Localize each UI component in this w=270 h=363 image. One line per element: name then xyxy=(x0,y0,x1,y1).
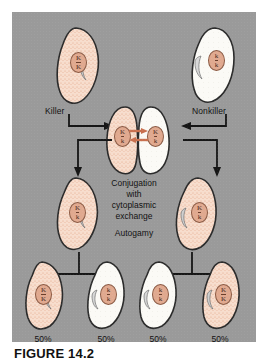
genotype-denominator: k xyxy=(76,212,80,221)
cell-parent-nonkiller: k k xyxy=(187,26,239,106)
genotype-exconjugant-right: K k xyxy=(191,202,208,223)
percent-offspring-2: 50% xyxy=(89,334,123,342)
arrow-conjugation-to-exconjugant-left xyxy=(66,136,118,180)
cell-exconjugant-left: K k xyxy=(54,176,102,252)
label-killer: Killer xyxy=(45,106,65,116)
genotype-parent-killer: K K xyxy=(70,52,87,73)
figure-panel: K K Killer k k Nonkiller K xyxy=(12,12,256,342)
genotype-denominator: k xyxy=(121,136,125,145)
genotype-parent-nonkiller: k k xyxy=(208,50,225,71)
percent-offspring-3: 50% xyxy=(141,334,175,342)
genotype-numerator: K xyxy=(197,205,202,213)
cell-exconjugant-right: K k xyxy=(172,176,220,252)
genotype-denominator: K xyxy=(76,62,81,71)
genotype-denominator: k xyxy=(154,136,158,145)
genotype-numerator: k xyxy=(107,287,111,295)
genotype-offspring-4: K K xyxy=(215,284,232,305)
genotype-denominator: k xyxy=(159,294,163,303)
figure-caption: FIGURE 14.2 xyxy=(14,346,94,361)
genotype-numerator: K xyxy=(76,55,81,63)
genotype-denominator: K xyxy=(221,294,226,303)
genotype-numerator: k xyxy=(159,287,163,295)
arrow-cytoplasmic-exchange xyxy=(129,127,149,145)
cell-offspring-1: K K xyxy=(22,260,66,332)
cell-offspring-2: k k xyxy=(84,260,128,332)
genotype-numerator: K xyxy=(221,287,226,295)
arrow-nonkiller-to-conjugation xyxy=(177,112,229,138)
genotype-numerator: k xyxy=(215,53,219,61)
genotype-offspring-2: k k xyxy=(100,284,117,305)
genotype-numerator: K xyxy=(75,205,80,213)
genotype-denominator: k xyxy=(198,212,202,221)
genotype-denominator: k xyxy=(107,294,111,303)
genotype-conjugant-right: K k xyxy=(147,126,164,147)
genotype-numerator: K xyxy=(120,129,125,137)
cell-offspring-3: k k xyxy=(136,260,180,332)
genotype-exconjugant-left: K k xyxy=(69,202,86,223)
genotype-denominator: k xyxy=(215,60,219,69)
genotype-denominator: K xyxy=(41,294,46,303)
genotype-offspring-3: k k xyxy=(152,284,169,305)
cell-parent-killer: K K xyxy=(52,26,104,106)
genotype-numerator: K xyxy=(153,129,158,137)
genotype-offspring-1: K K xyxy=(35,284,52,305)
genotype-numerator: K xyxy=(41,287,46,295)
percent-offspring-1: 50% xyxy=(26,334,60,342)
cell-offspring-4: K K xyxy=(198,260,242,332)
arrow-conjugation-to-exconjugant-right xyxy=(177,136,229,180)
percent-offspring-4: 50% xyxy=(203,334,237,342)
